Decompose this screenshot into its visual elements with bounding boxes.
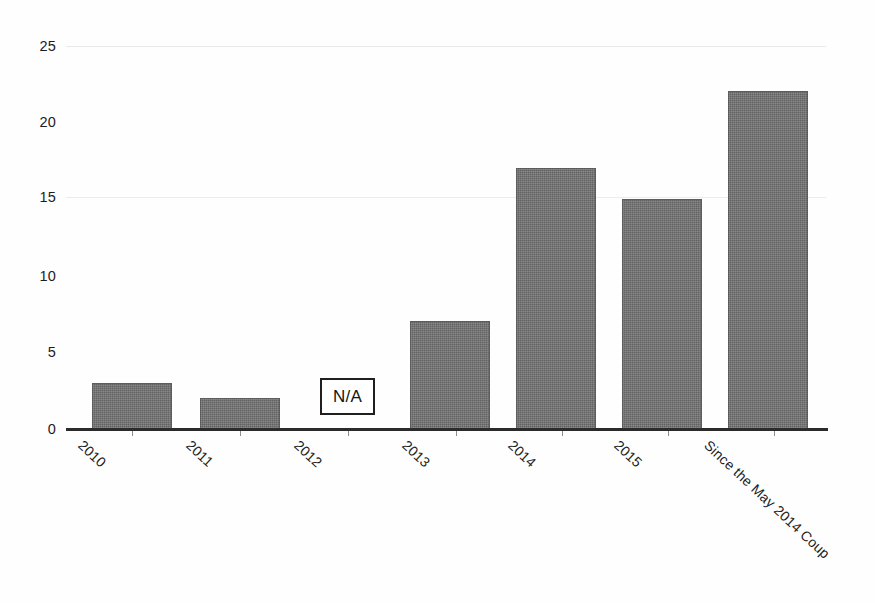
y-tick-label-15: 15 <box>39 189 56 205</box>
y-axis: 25 20 15 10 5 0 <box>0 0 56 603</box>
x-tick-2010 <box>132 431 133 436</box>
bar-2013 <box>410 321 490 429</box>
bar-since-coup <box>728 91 808 429</box>
x-tick-2012 <box>348 431 349 436</box>
x-tick-2013 <box>456 431 457 436</box>
bar-2014 <box>516 168 596 429</box>
y-tick-label-20: 20 <box>39 114 56 130</box>
x-axis-label-2011: 2011 <box>183 437 217 470</box>
x-axis-label-since-coup: Since the May 2014 Coup <box>701 437 833 562</box>
x-tick-2014 <box>562 431 563 436</box>
x-axis-label-2012: 2012 <box>291 437 325 470</box>
y-tick-label-25: 25 <box>39 38 56 54</box>
bar-2011 <box>200 398 280 429</box>
bar-2015 <box>622 199 702 429</box>
bar-2010 <box>92 383 172 429</box>
x-axis-label-2014: 2014 <box>505 437 539 470</box>
y-tick-label-0: 0 <box>48 421 56 437</box>
plot-area <box>66 40 826 429</box>
y-tick-label-10: 10 <box>39 268 56 284</box>
y-tick-label-5: 5 <box>48 344 56 360</box>
na-annotation-2012: N/A <box>320 378 375 415</box>
x-tick-2011 <box>240 431 241 436</box>
x-axis-label-2010: 2010 <box>75 437 109 470</box>
x-tick-2015 <box>668 431 669 436</box>
x-axis-label-2013: 2013 <box>399 437 433 470</box>
x-tick-since-coup <box>774 431 775 436</box>
x-axis-label-2015: 2015 <box>611 437 645 470</box>
x-axis-baseline <box>66 428 828 431</box>
bar-chart: 25 20 15 10 5 0 N/A 2010 2011 2012 2013 … <box>0 0 875 603</box>
